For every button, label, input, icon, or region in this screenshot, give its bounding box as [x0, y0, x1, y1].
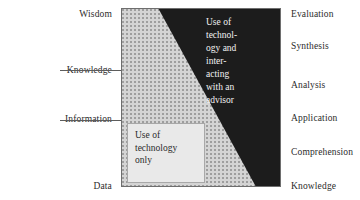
- left-label-data: Data: [93, 181, 112, 192]
- technology-advisor-text: Use of technol- ogy and inter- acting wi…: [206, 16, 258, 107]
- right-label-comprehension: Comprehension: [291, 147, 353, 158]
- diagram-canvas: Wisdom Knowledge Information Data Use of…: [0, 0, 360, 200]
- left-axis-labels: Wisdom Knowledge Information Data: [0, 0, 112, 200]
- right-label-analysis: Analysis: [291, 80, 325, 91]
- right-axis-labels: Evaluation Synthesis Analysis Applicatio…: [291, 0, 360, 200]
- knowledge-leader-line: [60, 70, 122, 71]
- left-label-wisdom: Wisdom: [79, 9, 112, 20]
- figure-box: Use of technology only Use of technol- o…: [121, 8, 281, 187]
- right-label-evaluation: Evaluation: [291, 9, 334, 20]
- technology-only-text: Use of technology only: [135, 129, 177, 167]
- right-label-synthesis: Synthesis: [291, 41, 329, 52]
- technology-only-box: Use of technology only: [127, 123, 205, 183]
- information-leader-line: [60, 120, 122, 121]
- right-label-application: Application: [291, 113, 338, 124]
- right-label-knowledge: Knowledge: [291, 181, 336, 192]
